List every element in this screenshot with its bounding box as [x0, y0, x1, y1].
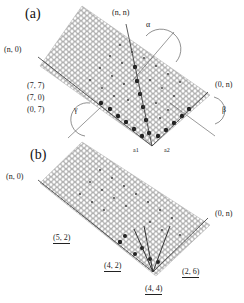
beta-label: β: [222, 106, 226, 114]
tube-index-2-6: (2, 6): [182, 268, 199, 278]
tube-index-0-7: (0, 7): [27, 106, 44, 114]
tube-index-4-4: (4, 4): [145, 285, 162, 295]
tube-index-5-2: (5, 2): [53, 234, 70, 244]
zigzag-right-label-a: (0, n): [215, 81, 232, 89]
zigzag-left-label-a: (n, 0): [4, 46, 21, 54]
panel-b-label: (b): [30, 148, 46, 162]
tube-index-7-0: (7, 0): [27, 94, 44, 102]
zigzag-left-label-b: (n, 0): [6, 173, 23, 181]
panel-a-lattice: [38, 6, 225, 146]
panel-a-label: (a): [25, 7, 41, 21]
tube-index-7-7: (7, 7): [27, 82, 44, 90]
tube-index-4-2: (4, 2): [104, 262, 121, 272]
alpha-label: α: [146, 21, 150, 29]
gamma-label: γ: [74, 106, 78, 114]
panel-b-lattice: [38, 142, 210, 276]
armchair-axis-label: (n, n): [112, 9, 129, 17]
zigzag-right-label-b: (0, n): [215, 210, 232, 218]
lattice-vector-a2: a2: [164, 147, 170, 153]
lattice-vector-a1: a1: [133, 147, 139, 153]
